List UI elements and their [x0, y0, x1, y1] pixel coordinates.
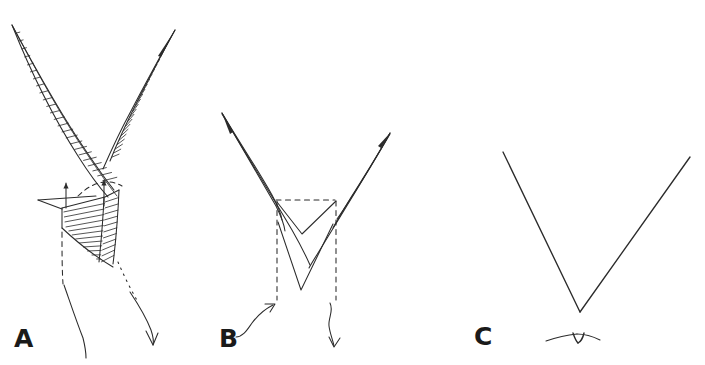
hatch-rungs-right	[112, 59, 160, 157]
panel-c: C	[474, 152, 690, 351]
curved-arrow-up-left	[236, 305, 273, 337]
arrowhead-down-right-b	[329, 337, 340, 347]
figure-root: A	[0, 0, 705, 365]
right-limb-hatched-band	[103, 30, 175, 169]
hatch-rungs-left	[17, 32, 118, 181]
central-hatched-panel	[38, 180, 119, 267]
small-curved-mark-with-notch	[546, 333, 600, 343]
panel-label-a: A	[14, 324, 34, 353]
freehand-curve-right-with-arrow	[130, 292, 153, 345]
figure-canvas: A	[0, 0, 705, 365]
panel-label-b: B	[219, 324, 238, 353]
arrowhead-up-left	[265, 304, 275, 312]
descending-dotted-line	[118, 262, 138, 302]
panel-label-c: C	[474, 322, 492, 351]
panel-b: B	[219, 113, 390, 353]
descending-dashed-line	[62, 232, 63, 284]
panel-a: A	[12, 25, 175, 358]
left-limb-hatched-band	[12, 25, 117, 197]
freehand-curve-left	[64, 285, 86, 358]
v-right-line	[580, 157, 690, 312]
curved-arrow-down-right	[329, 303, 334, 346]
left-wedge	[222, 113, 310, 265]
inner-small-v	[277, 201, 336, 234]
v-left-line	[503, 152, 580, 312]
